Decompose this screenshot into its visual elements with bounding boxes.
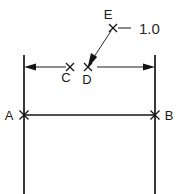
point-label-d: D xyxy=(82,72,91,87)
point-label-a: A xyxy=(5,108,14,123)
technical-diagram: A B C D E 1.0 xyxy=(0,0,180,194)
point-marker-e xyxy=(109,24,117,32)
dimension-value-label: 1.0 xyxy=(139,20,160,37)
point-label-b: B xyxy=(165,108,174,123)
point-label-e: E xyxy=(104,7,113,22)
point-label-c: C xyxy=(61,70,70,85)
diagram-canvas: A B C D E 1.0 xyxy=(0,0,180,194)
dimension-arrowhead-left xyxy=(24,63,36,70)
point-marker-d xyxy=(84,63,92,71)
dimension-arrowhead-right xyxy=(143,63,155,70)
